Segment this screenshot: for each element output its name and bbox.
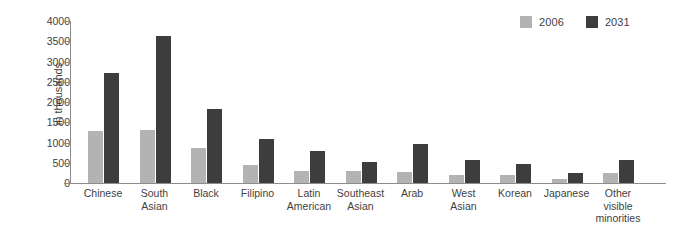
plot-area <box>70 21 666 183</box>
bar-group <box>191 21 222 183</box>
bar-2031 <box>259 139 274 183</box>
bar-group <box>243 21 274 183</box>
x-axis-labels: ChineseSouthAsianBlackFilipinoLatinAmeri… <box>70 187 666 234</box>
bar-group <box>397 21 428 183</box>
bar-2031 <box>465 160 480 183</box>
bar-2006 <box>191 148 206 183</box>
x-axis-label-line: Other <box>582 187 654 200</box>
x-axis-label: Othervisibleminorities <box>582 187 654 225</box>
bar-2006 <box>346 171 361 183</box>
bar-group <box>294 21 325 183</box>
bar-group <box>346 21 377 183</box>
bar-group <box>88 21 119 183</box>
bar-2031 <box>104 73 119 183</box>
x-axis-line <box>70 183 666 184</box>
bar-2031 <box>310 151 325 183</box>
x-axis-label-line: Asian <box>428 200 500 213</box>
x-axis-label-line: Asian <box>325 200 397 213</box>
bar-2006 <box>243 165 258 183</box>
bar-2006 <box>552 179 567 183</box>
bar-2006 <box>603 173 618 183</box>
bar-2031 <box>619 160 634 183</box>
bar-2006 <box>397 172 412 183</box>
bar-2031 <box>568 173 583 183</box>
bar-2031 <box>516 164 531 183</box>
bar-2031 <box>413 144 428 183</box>
bar-group <box>449 21 480 183</box>
bar-group <box>500 21 531 183</box>
bar-2006 <box>500 175 515 183</box>
bar-group <box>552 21 583 183</box>
bar-group <box>603 21 634 183</box>
bar-2006 <box>294 171 309 183</box>
bar-2031 <box>362 162 377 183</box>
bar-2031 <box>207 109 222 183</box>
bar-2006 <box>88 131 103 183</box>
x-axis-label-line: visible <box>582 200 654 213</box>
x-axis-label-line: Asian <box>119 200 191 213</box>
x-axis-label-line: minorities <box>582 212 654 225</box>
bar-chart: 20062031 in thousands 050010001500200025… <box>0 0 674 234</box>
bar-group <box>140 21 171 183</box>
bar-2031 <box>156 36 171 183</box>
bar-2006 <box>140 130 155 183</box>
bar-2006 <box>449 175 464 183</box>
